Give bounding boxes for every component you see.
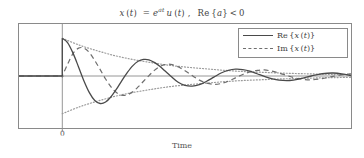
legend-item-real: Re {x (t)} [239, 29, 347, 42]
legend-item-imaginary: Im {x (t)} [239, 42, 347, 55]
legend-swatch-dashed-line [243, 44, 273, 54]
figure-container: x (t) = eat u (t) ,Re {a} < 0 0 Time Re … [0, 0, 364, 158]
legend-label-real: Re {x (t)} [277, 31, 315, 40]
legend-swatch-solid-line [243, 31, 273, 41]
xtick-label-zero: 0 [52, 129, 72, 138]
legend-label-imaginary: Im {x (t)} [277, 44, 315, 53]
legend: Re {x (t)} Im {x (t)} [238, 28, 348, 58]
x-axis-label: Time [0, 141, 364, 150]
lower-envelope-curve [62, 77, 351, 113]
